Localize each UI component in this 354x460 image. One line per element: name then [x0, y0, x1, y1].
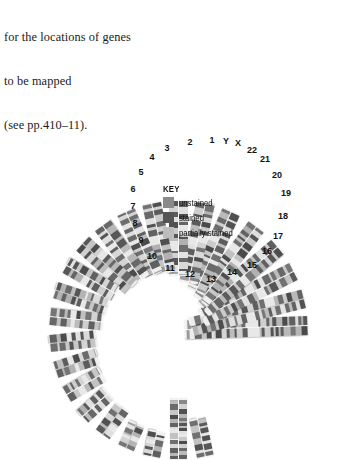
key-row: stained [163, 211, 263, 224]
chromosome-band [170, 433, 178, 439]
key-rows: unstainedstainedpartially stained [163, 196, 263, 239]
key-label: stained [179, 213, 204, 223]
chromosome-band [170, 440, 178, 445]
chromosome-band [229, 329, 235, 338]
chromosome-label-18: 18 [278, 212, 288, 221]
key-title: KEY [163, 184, 255, 194]
key-swatch-stained [163, 212, 174, 223]
chromosome-band [170, 429, 178, 433]
chromosome-band [179, 441, 187, 443]
chromosome-label-9: 9 [138, 236, 143, 245]
chromosome-label-13: 13 [206, 275, 216, 284]
key-swatch-partially [163, 227, 174, 238]
chromosome-band [253, 328, 259, 337]
chromosome-band [247, 328, 253, 337]
chromosome-band [179, 400, 187, 404]
chromosome-label-3: 3 [164, 144, 169, 153]
chromosome-22 [143, 429, 165, 459]
chromosome-band [179, 426, 187, 428]
chromosome-band [179, 423, 187, 426]
chromosome-label-7: 7 [130, 202, 135, 211]
chromosome-band [170, 400, 178, 401]
key-row: partially stained [163, 226, 263, 239]
chromosome-label-21: 21 [260, 155, 270, 164]
chromosome-label-X: X [235, 139, 241, 148]
chromosome-band [179, 428, 187, 430]
chromosome-band [289, 316, 295, 325]
chromosome-band [186, 330, 189, 339]
chromosome-band [179, 245, 188, 252]
chromosome-band [283, 327, 290, 336]
chromosome-band [170, 427, 178, 429]
chromosome-band [179, 455, 187, 459]
chromosome-band [170, 419, 178, 423]
chromosome-band [179, 444, 187, 448]
chromosome-band [281, 317, 286, 326]
chromosome-band [170, 423, 178, 427]
chromosome-label-5: 5 [138, 168, 143, 177]
chromosome-label-8: 8 [132, 219, 137, 228]
chromosome-band [170, 456, 178, 459]
chromosome-band [236, 328, 242, 337]
chromosome-band [179, 418, 187, 421]
chromosome-label-2: 2 [187, 138, 192, 147]
chromosome-band [179, 451, 187, 455]
chromosome-band [170, 448, 178, 452]
key-label: unstained [179, 198, 213, 208]
chromosome-Y [188, 416, 213, 459]
chromosome-band [179, 431, 187, 435]
key-label: partially stained [179, 228, 233, 238]
key-box: KEY unstainedstainedpartially stained [163, 184, 263, 241]
chromosome-band [179, 421, 187, 423]
chromosome-band [179, 409, 187, 414]
chromosome-label-Y: Y [223, 137, 229, 146]
chromosome-band [170, 401, 178, 404]
chromosome-band [170, 415, 178, 419]
chromosome-X [170, 398, 187, 460]
chromosome-label-6: 6 [130, 185, 135, 194]
chromosome-label-12: 12 [185, 270, 195, 279]
chromosome-band [186, 320, 187, 329]
chromatid [179, 398, 187, 460]
chromosome-band [170, 444, 178, 448]
chromosome-label-16: 16 [262, 247, 272, 256]
chromosome-label-11: 11 [165, 264, 175, 273]
chromatid [170, 398, 178, 460]
chromosome-band [179, 414, 187, 418]
chromosome-band [179, 404, 187, 410]
key-swatch-unstained [163, 197, 174, 208]
chromosome-band [170, 404, 178, 409]
chromosome-band [290, 326, 296, 335]
chromosome-21 [117, 420, 144, 452]
chromosome-band [295, 326, 301, 335]
chromosome-label-15: 15 [247, 261, 257, 270]
chromosome-label-14: 14 [227, 268, 237, 277]
chromosome-band [170, 410, 178, 415]
chromosome-label-4: 4 [149, 153, 154, 162]
chromosome-band [301, 326, 307, 335]
chromosome-band [97, 313, 102, 321]
key-row: unstained [163, 196, 263, 209]
chromosome-band [89, 339, 95, 347]
chromosome-label-1: 1 [209, 136, 214, 145]
chromosome-band [93, 330, 95, 338]
chromosome-band [276, 317, 282, 326]
chromosome-band [179, 437, 187, 441]
chromosome-label-19: 19 [281, 189, 291, 198]
chromosome-band [98, 322, 101, 330]
chromosome-label-22: 22 [247, 146, 257, 155]
chromosome-band [179, 434, 187, 437]
chromosome-band [264, 327, 270, 336]
chromosome-band [170, 453, 178, 456]
chromosome-label-10: 10 [147, 252, 157, 261]
chromosome-label-17: 17 [273, 232, 283, 241]
chromosome-band [179, 448, 187, 452]
chromosome-label-20: 20 [272, 171, 282, 180]
